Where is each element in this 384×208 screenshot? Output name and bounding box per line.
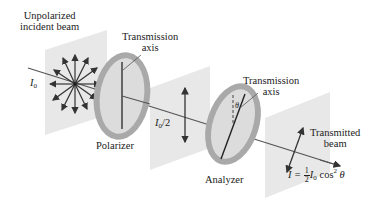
transmission-axis-label-1: Transmission axis (122, 31, 178, 53)
half-intensity-label: I0/2 (155, 117, 170, 132)
analyzer-label: Analyzer (205, 174, 243, 185)
theta-label: θ (235, 100, 239, 111)
transmission-axis-label-2: Transmission axis (243, 75, 299, 97)
polarizer-label: Polarizer (96, 140, 134, 151)
transmitted-beam-label: Transmitted beam (310, 127, 360, 149)
malus-law-formula: I = 12I0 cos2 θ (288, 166, 345, 184)
unpolarized-label: Unpolarized incident beam (20, 10, 79, 32)
incident-intensity-label: I0 (30, 77, 37, 92)
